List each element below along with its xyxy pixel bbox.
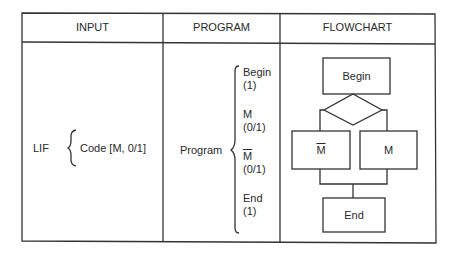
header-program: PROGRAM [163, 21, 280, 33]
diagram-lines [0, 0, 455, 254]
flow-begin-label: Begin [323, 70, 390, 83]
header-input: INPUT [22, 21, 163, 33]
input-brace [68, 130, 76, 166]
program-step-begin: Begin (1) [243, 66, 271, 108]
program-step-end: End (1) [243, 192, 271, 218]
program-steps: Begin (1) M (0/1) M (0/1) End (1) [243, 66, 271, 218]
program-step-m: M (0/1) [243, 108, 271, 150]
program-step-m-bar: M (0/1) [243, 150, 271, 192]
right-branch-line [382, 110, 387, 131]
flow-m-bar-label: M [292, 144, 350, 157]
input-label: LIF [33, 142, 49, 155]
flow-m-label: M [360, 144, 417, 157]
decision-diamond [324, 94, 382, 125]
input-code: Code [M, 0/1] [80, 142, 146, 155]
merge-line [320, 169, 387, 184]
header-flowchart: FLOWCHART [280, 21, 435, 33]
program-brace [231, 66, 239, 233]
header-separator [22, 42, 435, 44]
program-label: Program [180, 144, 222, 157]
left-branch-line [320, 110, 324, 131]
flow-end-label: End [323, 209, 385, 222]
